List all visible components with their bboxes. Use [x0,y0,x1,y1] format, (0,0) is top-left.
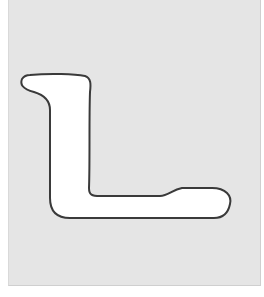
l-shape-path [21,74,230,218]
l-shape-outline [0,0,264,297]
